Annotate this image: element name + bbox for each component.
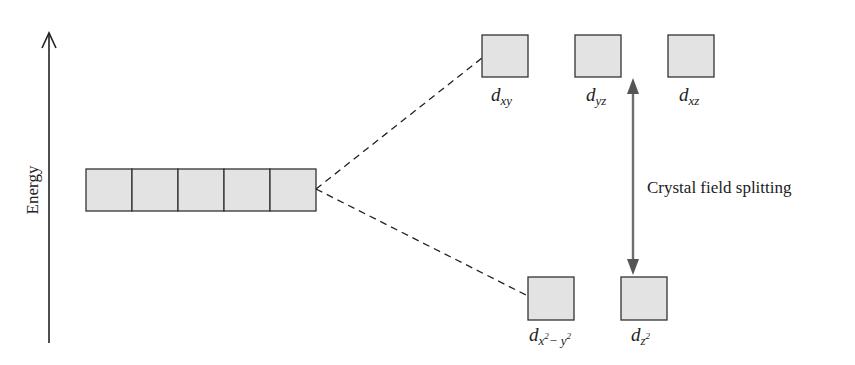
orbital-label-dxz: dxz (679, 84, 699, 109)
orbital-label-dx2-y2: dx2− y2 (529, 324, 571, 349)
orbital-subscript-z2: z2 (641, 333, 651, 348)
degenerate-orbital-set (86, 169, 316, 211)
splitting-double-arrow (627, 78, 639, 275)
lower-orbital-boxes (528, 277, 667, 320)
orbital-label-dyz: dyz (586, 84, 606, 109)
orbital-subscript-x2-y2: x2− y2 (539, 333, 572, 348)
crystal-field-splitting-label: Crystal field splitting (647, 178, 792, 198)
energy-axis (42, 33, 56, 343)
upper-orbital-boxes (482, 35, 714, 77)
orbital-label-dz2: dz2 (631, 324, 650, 349)
energy-axis-label: Energy (23, 166, 43, 215)
orbital-label-dxy: dxy (491, 84, 512, 109)
energy-diagram: Energy dxy dyz dxz dx2− y2 dz2 Crystal f… (0, 0, 855, 365)
